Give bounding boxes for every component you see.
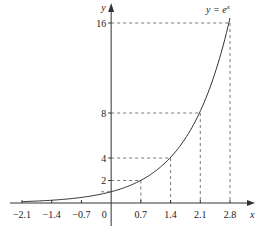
x-tick-label: −1.4	[43, 209, 61, 220]
x-tick-label: −0.7	[72, 209, 90, 220]
y-axis-label: y	[100, 2, 106, 13]
axes	[10, 3, 255, 226]
x-axis-arrow-icon	[247, 200, 255, 206]
x-tick-label: 1.4	[164, 209, 177, 220]
y-ticks: 24816	[96, 18, 111, 187]
x-tick-label: −2.1	[13, 209, 31, 220]
x-tick-label: 2.8	[224, 209, 237, 220]
x-tick-label: 0	[102, 209, 107, 220]
x-tick-label: 2.1	[194, 209, 207, 220]
guide-lines	[101, 23, 230, 203]
y-tick-label: 16	[96, 18, 106, 29]
function-label-base: y = e	[205, 4, 227, 15]
y-tick-label: 2	[101, 175, 106, 186]
x-axis-label: x	[249, 209, 255, 220]
function-label-exponent: x	[226, 3, 231, 11]
y-axis-arrow-icon	[108, 3, 114, 12]
y-tick-label: 4	[101, 153, 106, 164]
chart: −2.1−1.4−0.700.71.42.12.8 24816 x y y = …	[0, 0, 259, 226]
function-label: y = ex	[205, 3, 231, 15]
x-tick-label: 0.7	[135, 209, 148, 220]
exp-curve	[22, 18, 230, 202]
y-tick-label: 8	[101, 108, 106, 119]
